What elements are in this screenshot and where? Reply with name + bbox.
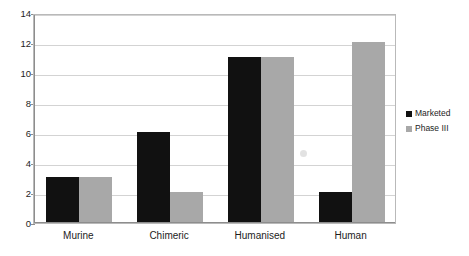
y-axis-line — [34, 15, 35, 223]
legend-item: Phase III — [406, 121, 468, 136]
bar-group — [319, 13, 385, 222]
bar-group — [137, 13, 203, 222]
bar-chimeric-phase-iii — [170, 192, 203, 222]
x-axis-category-label: Murine — [33, 230, 124, 242]
bar-chimeric-marketed — [137, 132, 170, 222]
chart-legend: MarketedPhase III — [406, 106, 468, 136]
y-axis-tick-label: 8 — [5, 99, 31, 109]
y-axis-tick-label: 0 — [5, 219, 31, 229]
bar-humanised-phase-iii — [261, 57, 294, 222]
y-axis-tick-label: 12 — [5, 39, 31, 49]
y-axis-tick-mark — [31, 224, 35, 225]
bar-murine-marketed — [46, 177, 79, 222]
x-axis-category-label: Humanised — [215, 230, 306, 242]
bar-group — [46, 13, 112, 222]
legend-label: Phase III — [415, 124, 449, 133]
legend-swatch-icon — [406, 111, 412, 117]
legend-item: Marketed — [406, 106, 468, 121]
bar-human-phase-iii — [352, 42, 385, 222]
bar-human-marketed — [319, 192, 352, 222]
legend-label: Marketed — [415, 109, 450, 118]
bar-murine-phase-iii — [79, 177, 112, 222]
plot-area — [33, 14, 396, 224]
y-axis: 02468101214 — [0, 14, 31, 224]
bar-humanised-marketed — [228, 57, 261, 222]
bar-chart: 02468101214 MurineChimericHumanisedHuman… — [0, 0, 469, 256]
x-axis-category-label: Human — [305, 230, 396, 242]
y-axis-tick-label: 4 — [5, 159, 31, 169]
bar-group — [228, 13, 294, 222]
legend-swatch-icon — [406, 126, 412, 132]
y-axis-tick-label: 14 — [5, 9, 31, 19]
x-axis-category-label: Chimeric — [124, 230, 215, 242]
x-axis-line — [34, 222, 395, 223]
y-axis-tick-label: 10 — [5, 69, 31, 79]
scan-artifact-speck — [300, 150, 307, 157]
y-axis-tick-label: 6 — [5, 129, 31, 139]
y-axis-tick-label: 2 — [5, 189, 31, 199]
